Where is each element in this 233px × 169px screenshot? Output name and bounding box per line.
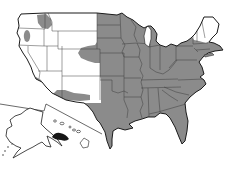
hawaii-island-small-4 (72, 129, 75, 131)
alaska-outline (6, 108, 62, 158)
hawaii-island-small-1 (54, 120, 57, 122)
us-range-map-figure: Outline map of the United States showing… (0, 0, 233, 169)
hawaii-island-small-3 (69, 126, 71, 128)
patch-oregon (24, 30, 30, 42)
hawaii-big-island (80, 138, 89, 148)
us-range-map-svg (0, 0, 233, 169)
alaska-inset (2, 108, 62, 158)
aleutian-islands (2, 143, 12, 155)
hawaii-island-small-2 (60, 122, 64, 125)
hawaii-island-small-5 (77, 130, 81, 132)
